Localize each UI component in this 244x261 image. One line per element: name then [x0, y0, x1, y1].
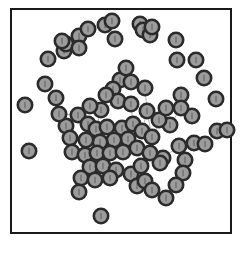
node-inner-mark — [58, 111, 60, 117]
node-inner-mark — [94, 177, 96, 183]
graph-node[interactable] — [159, 191, 173, 205]
node-inner-mark — [165, 195, 167, 201]
graph-node[interactable] — [169, 178, 183, 192]
node-inner-mark — [119, 77, 121, 83]
node-inner-mark — [100, 213, 102, 219]
graph-node[interactable] — [220, 123, 234, 137]
graph-node[interactable] — [174, 101, 188, 115]
graph-node[interactable] — [134, 159, 148, 173]
node-inner-mark — [141, 128, 143, 134]
graph-node[interactable] — [172, 139, 186, 153]
node-inner-mark — [109, 150, 111, 156]
node-inner-mark — [44, 81, 46, 87]
node-inner-mark — [111, 18, 113, 24]
node-inner-mark — [105, 92, 107, 98]
node-inner-mark — [117, 98, 119, 104]
graph-node[interactable] — [145, 130, 159, 144]
graph-node[interactable] — [103, 171, 117, 185]
graph-node[interactable] — [159, 101, 173, 115]
graph-node[interactable] — [52, 107, 66, 121]
node-inner-mark — [78, 33, 80, 39]
node-inner-mark — [146, 108, 148, 114]
graph-node[interactable] — [79, 133, 93, 147]
node-inner-mark — [89, 103, 91, 109]
node-inner-mark — [195, 57, 197, 63]
node-inner-mark — [24, 102, 26, 108]
graph-node[interactable] — [72, 185, 86, 199]
node-inner-mark — [113, 137, 115, 143]
node-inner-mark — [144, 85, 146, 91]
node-inner-mark — [95, 126, 97, 132]
graph-node[interactable] — [169, 33, 183, 47]
graph-node[interactable] — [74, 171, 88, 185]
node-inner-mark — [127, 136, 129, 142]
node-inner-mark — [184, 157, 186, 163]
graph-node[interactable] — [143, 146, 157, 160]
node-inner-mark — [87, 26, 89, 32]
graph-node[interactable] — [88, 173, 102, 187]
graph-node[interactable] — [124, 97, 138, 111]
network-graph-figure — [0, 0, 244, 261]
node-inner-mark — [140, 163, 142, 169]
node-inner-mark — [89, 164, 91, 170]
graph-node[interactable] — [119, 61, 133, 75]
node-inner-mark — [122, 149, 124, 155]
node-inner-mark — [100, 107, 102, 113]
node-inner-mark — [65, 123, 67, 129]
graph-node[interactable] — [209, 92, 223, 106]
node-inner-mark — [151, 187, 153, 193]
node-inner-mark — [121, 125, 123, 131]
graph-node[interactable] — [105, 14, 119, 28]
graph-canvas — [0, 0, 244, 261]
node-inner-mark — [193, 140, 195, 146]
node-inner-mark — [165, 105, 167, 111]
graph-node[interactable] — [138, 81, 152, 95]
graph-node[interactable] — [99, 88, 113, 102]
node-inner-mark — [226, 127, 228, 133]
node-inner-mark — [130, 101, 132, 107]
node-inner-mark — [125, 65, 127, 71]
node-inner-mark — [85, 137, 87, 143]
node-inner-mark — [61, 38, 63, 44]
graph-node[interactable] — [49, 91, 63, 105]
node-inner-mark — [182, 170, 184, 176]
graph-node[interactable] — [198, 137, 212, 151]
node-inner-mark — [109, 175, 111, 181]
graph-node[interactable] — [170, 53, 184, 67]
node-inner-mark — [175, 182, 177, 188]
graph-node[interactable] — [189, 53, 203, 67]
graph-node[interactable] — [83, 99, 97, 113]
graph-node[interactable] — [41, 52, 55, 66]
node-inner-mark — [80, 175, 82, 181]
node-inner-mark — [144, 178, 146, 184]
node-inner-mark — [204, 141, 206, 147]
node-inner-mark — [169, 122, 171, 128]
graph-node[interactable] — [18, 98, 32, 112]
node-inner-mark — [47, 56, 49, 62]
graph-node[interactable] — [116, 145, 130, 159]
node-inner-mark — [106, 124, 108, 130]
node-inner-mark — [215, 96, 217, 102]
node-inner-mark — [84, 152, 86, 158]
node-inner-mark — [77, 112, 79, 118]
graph-node[interactable] — [145, 183, 159, 197]
graph-node[interactable] — [94, 209, 108, 223]
graph-node[interactable] — [22, 144, 36, 158]
graph-node[interactable] — [124, 75, 138, 89]
graph-node[interactable] — [108, 32, 122, 46]
graph-node[interactable] — [72, 41, 86, 55]
node-inner-mark — [151, 24, 153, 30]
graph-node[interactable] — [63, 131, 77, 145]
graph-node[interactable] — [145, 20, 159, 34]
node-inner-mark — [71, 149, 73, 155]
node-inner-mark — [96, 150, 98, 156]
node-inner-mark — [180, 105, 182, 111]
graph-node[interactable] — [55, 34, 69, 48]
node-inner-mark — [151, 134, 153, 140]
graph-node[interactable] — [81, 22, 95, 36]
node-inner-mark — [132, 121, 134, 127]
node-inner-mark — [130, 79, 132, 85]
graph-node[interactable] — [197, 71, 211, 85]
node-inner-mark — [216, 128, 218, 134]
graph-node[interactable] — [38, 77, 52, 91]
